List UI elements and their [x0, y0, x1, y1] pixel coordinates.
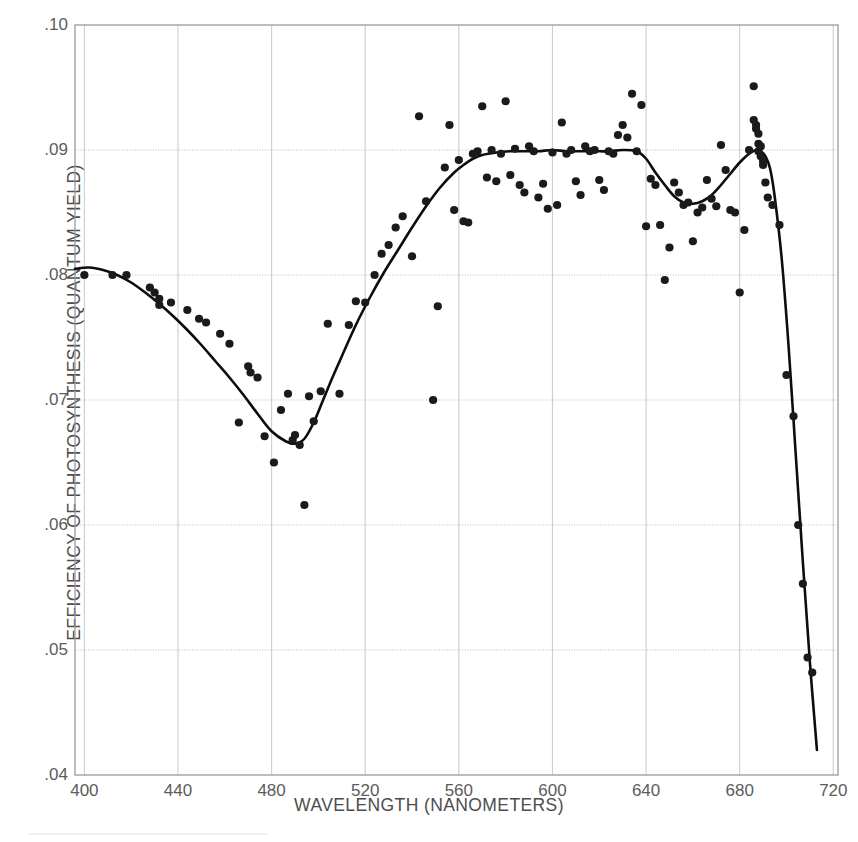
data-point: [544, 205, 552, 213]
data-point: [385, 241, 393, 249]
data-point: [661, 276, 669, 284]
data-point: [108, 271, 116, 279]
data-point: [291, 431, 299, 439]
data-point: [277, 406, 285, 414]
data-point: [757, 142, 765, 150]
data-point: [651, 181, 659, 189]
data-point: [750, 82, 758, 90]
data-point: [488, 146, 496, 154]
data-point: [483, 173, 491, 181]
data-point: [623, 133, 631, 141]
data-point: [445, 121, 453, 129]
data-point: [633, 147, 641, 155]
data-point: [761, 178, 769, 186]
data-point: [441, 163, 449, 171]
data-point: [590, 146, 598, 154]
plot-area: [0, 0, 858, 842]
data-point: [717, 141, 725, 149]
data-point: [558, 118, 566, 126]
data-point-group: [80, 82, 816, 676]
fitted-curve: [75, 150, 817, 750]
data-point: [434, 302, 442, 310]
data-point: [415, 112, 423, 120]
data-point: [317, 387, 325, 395]
data-point: [539, 180, 547, 188]
data-point: [429, 396, 437, 404]
scan-artifact: [28, 833, 268, 835]
data-point: [511, 145, 519, 153]
data-point: [595, 176, 603, 184]
data-point: [253, 373, 261, 381]
data-point: [506, 171, 514, 179]
data-point: [183, 306, 191, 314]
data-point: [799, 580, 807, 588]
data-point: [399, 212, 407, 220]
data-point: [450, 206, 458, 214]
data-point: [567, 146, 575, 154]
data-point: [689, 237, 697, 245]
data-point: [759, 161, 767, 169]
data-point: [296, 441, 304, 449]
data-point: [361, 298, 369, 306]
data-point: [736, 288, 744, 296]
data-point: [745, 146, 753, 154]
data-point: [548, 148, 556, 156]
data-point: [310, 417, 318, 425]
data-point: [754, 130, 762, 138]
data-point: [324, 320, 332, 328]
data-point: [656, 221, 664, 229]
data-point: [600, 186, 608, 194]
data-point: [300, 501, 308, 509]
data-point: [167, 298, 175, 306]
data-point: [703, 176, 711, 184]
data-point: [803, 653, 811, 661]
data-point: [670, 178, 678, 186]
data-point: [422, 197, 430, 205]
data-point: [216, 330, 224, 338]
data-point: [722, 166, 730, 174]
data-point: [553, 201, 561, 209]
data-point: [775, 221, 783, 229]
data-point: [497, 150, 505, 158]
data-point: [370, 271, 378, 279]
data-point: [225, 340, 233, 348]
data-point: [665, 243, 673, 251]
data-point: [530, 147, 538, 155]
data-point: [455, 156, 463, 164]
data-point: [642, 222, 650, 230]
data-point: [492, 177, 500, 185]
data-point: [195, 315, 203, 323]
data-point: [731, 208, 739, 216]
data-point: [782, 371, 790, 379]
data-point: [202, 318, 210, 326]
data-point: [270, 458, 278, 466]
data-point: [684, 198, 692, 206]
data-point: [609, 150, 617, 158]
data-point: [378, 250, 386, 258]
data-point: [408, 252, 416, 260]
data-point: [794, 521, 802, 529]
data-point: [260, 432, 268, 440]
data-point: [473, 147, 481, 155]
data-point: [534, 193, 542, 201]
data-point: [789, 412, 797, 420]
data-point: [768, 201, 776, 209]
data-point: [345, 321, 353, 329]
data-point: [637, 101, 645, 109]
data-point: [478, 102, 486, 110]
data-point: [246, 368, 254, 376]
data-point: [708, 195, 716, 203]
data-point: [155, 301, 163, 309]
data-point: [352, 297, 360, 305]
chart-figure: EFFICIENCY OF PHOTOSYNTHESIS (QUANTUM YI…: [0, 0, 858, 842]
data-point: [520, 188, 528, 196]
data-point: [335, 390, 343, 398]
data-point: [502, 97, 510, 105]
data-point: [675, 188, 683, 196]
data-point: [572, 177, 580, 185]
data-point: [808, 668, 816, 676]
data-point: [764, 193, 772, 201]
data-point: [619, 121, 627, 129]
data-point: [392, 223, 400, 231]
data-point: [614, 131, 622, 139]
